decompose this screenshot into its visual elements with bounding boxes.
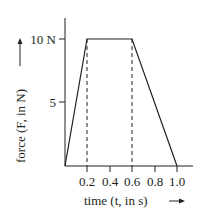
x-axis-label: time (t, in s) — [84, 193, 148, 208]
x-tick-label: 0.6 — [124, 174, 141, 189]
y-axis-label: force (F, in N) — [13, 89, 28, 163]
y-tick-label-5: 5 — [50, 95, 57, 110]
force-curve — [65, 39, 177, 166]
y-tick-label-10: 10 N — [30, 32, 56, 47]
force-time-chart: 10 N 5 0.2 0.4 0.6 0.8 1.0 time (t, in s… — [0, 0, 202, 216]
x-tick-label: 0.2 — [79, 174, 95, 189]
x-tick-label: 0.4 — [102, 174, 119, 189]
y-arrow-icon — [18, 38, 23, 44]
x-tick-label: 1.0 — [169, 174, 185, 189]
x-tick-label: 0.8 — [147, 174, 163, 189]
x-arrow-icon — [179, 199, 185, 204]
